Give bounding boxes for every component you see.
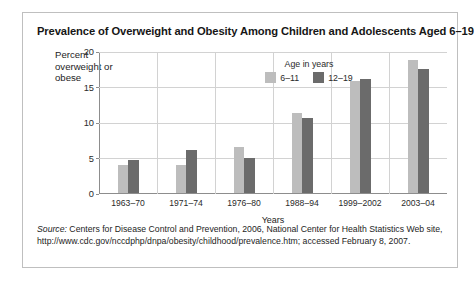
bar-1971-74-6-11: [176, 165, 187, 193]
legend-item-6-11: 6–11: [265, 72, 299, 83]
gridline-vertical: [157, 52, 158, 194]
y-tick-mark: [96, 194, 99, 195]
x-tick-label: 1963–70: [111, 198, 144, 208]
source-line-2: http://www.cdc.gov/nccdphp/dnpa/obesity/…: [37, 236, 410, 246]
bar-1988-94-6-11: [292, 113, 303, 193]
y-tick-label: 20: [84, 47, 94, 57]
x-tick-label: 1999–2002: [338, 198, 381, 208]
bar-1976-80-12-19: [244, 158, 255, 194]
bar-1999-2002-12-19: [360, 79, 371, 193]
bar-1963-70-12-19: [128, 160, 139, 193]
legend-swatch-icon: [313, 72, 324, 83]
gridline-vertical: [215, 52, 216, 194]
legend-swatch-icon: [265, 72, 276, 83]
source-note: Source: Centers for Disease Control and …: [37, 223, 449, 248]
bar-1976-80-6-11: [234, 147, 245, 193]
legend-label: 6–11: [280, 73, 299, 83]
legend: Age in years 6–1112–19: [241, 59, 377, 83]
figure-box: Prevalence of Overweight and Obesity Amo…: [22, 12, 458, 268]
x-tick-label: 2003–04: [401, 198, 434, 208]
source-line-1: Centers for Disease Control and Preventi…: [67, 224, 443, 234]
y-tick-mark: [96, 123, 99, 124]
bar-1988-94-12-19: [302, 118, 313, 193]
y-tick-label: 10: [84, 118, 94, 128]
y-tick-mark: [96, 52, 99, 53]
screenshot-root: Prevalence of Overweight and Obesity Amo…: [0, 0, 474, 282]
bar-1963-70-6-11: [118, 165, 129, 193]
bar-1999-2002-6-11: [350, 81, 361, 193]
source-label: Source:: [37, 224, 67, 234]
gridline-vertical: [389, 52, 390, 194]
x-tick-label: 1976–80: [227, 198, 260, 208]
y-tick-label: 15: [84, 83, 94, 93]
bar-1971-74-12-19: [186, 150, 197, 193]
y-tick-label: 5: [89, 154, 94, 164]
y-tick-mark: [96, 87, 99, 88]
legend-label: 12–19: [328, 73, 352, 83]
y-tick-mark: [96, 158, 99, 159]
y-tick-label: 0: [89, 189, 94, 199]
legend-items: 6–1112–19: [241, 72, 377, 83]
bar-2003-04-6-11: [408, 60, 419, 193]
legend-item-12-19: 12–19: [313, 72, 352, 83]
x-tick-label: 1971–74: [169, 198, 202, 208]
x-tick-label: 1988–94: [285, 198, 318, 208]
bar-2003-04-12-19: [418, 69, 429, 193]
legend-title: Age in years: [241, 59, 377, 69]
